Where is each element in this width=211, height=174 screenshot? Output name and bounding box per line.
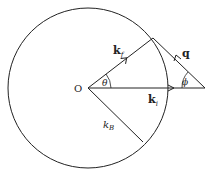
ki-label: ki [148, 93, 158, 108]
theta-label: θ [102, 78, 108, 88]
origin-label: O [74, 83, 82, 94]
q-label: q [182, 47, 190, 60]
kB-label: kB [103, 119, 114, 132]
kf-label: kf [113, 44, 125, 59]
kB-radius [88, 88, 143, 142]
q-vector [153, 38, 205, 88]
q-arrow-icon [174, 55, 181, 61]
scattering-diagram: O kf ki q θ ϕ kB [0, 0, 211, 174]
phi-label: ϕ [182, 77, 188, 87]
